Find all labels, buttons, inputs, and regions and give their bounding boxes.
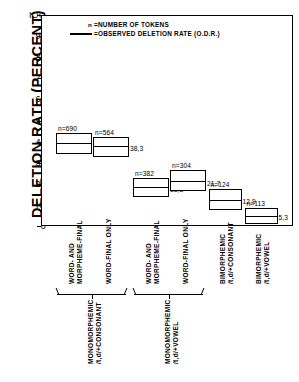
- group-label-line1: MONOMORPHEMIC: [164, 299, 172, 364]
- group-label-line1: MONOMORPHEMIC: [87, 299, 95, 364]
- x-axis-column-label-line2: /t,d/+VOWEL: [263, 234, 271, 284]
- data-box: n=382: [133, 178, 169, 197]
- y-axis-tick-mark: [37, 226, 41, 227]
- x-axis-column-label-line1: WORD- AND: [68, 220, 76, 284]
- legend-label-odr: =OBSERVED DELETION RATE (O.D.R.): [94, 29, 220, 38]
- x-axis-column-label: BIMORPHEMIC/t,d/+CONSONANT: [219, 222, 234, 284]
- group-bracket-tick: [92, 294, 93, 299]
- box-n-label: n=690: [58, 125, 77, 132]
- odr-line: [210, 200, 241, 201]
- x-axis-column-label: BIMORPHEMIC/t,d/+VOWEL: [255, 234, 270, 284]
- group-bracket: [134, 288, 203, 297]
- box-n-label: n=564: [95, 129, 114, 136]
- data-box: n=564: [93, 137, 129, 157]
- group-label: MONOMORPHEMIC/t,d/+VOWEL: [164, 299, 179, 364]
- group-bracket-tick: [169, 294, 170, 299]
- box-n-label: n=113: [247, 200, 266, 207]
- legend-item-odr: =OBSERVED DELETION RATE (O.D.R.): [66, 29, 220, 38]
- x-axis-column-label-line1: BIMORPHEMIC: [219, 222, 227, 284]
- data-box: n=690: [56, 133, 92, 154]
- odr-line: [94, 146, 128, 147]
- x-axis-column-label-line1: WORD- AND: [145, 220, 153, 284]
- legend-symbol-n: n: [66, 20, 94, 29]
- x-axis-column-label-line2: MORPHEME-FINAL: [76, 220, 84, 284]
- data-box: n=304: [170, 170, 206, 191]
- group-label-line2: /t,d/+VOWEL: [171, 299, 179, 364]
- legend-item-tokens: n =NUMBER OF TOKENS: [66, 20, 220, 29]
- odr-line: [246, 216, 277, 217]
- data-box: n=113: [245, 208, 278, 224]
- x-axis-column-label-line1: WORD-FINAL ONLY: [105, 218, 113, 284]
- odr-line: [134, 187, 168, 188]
- legend-symbol-line-icon: [66, 29, 94, 38]
- x-axis-column-label-line1: WORD-FINAL ONLY: [182, 218, 190, 284]
- legend-label-tokens: =NUMBER OF TOKENS: [94, 20, 169, 29]
- group-label-line2: /t,d/+CONSONANT: [94, 299, 102, 364]
- box-n-label: n=304: [172, 162, 191, 169]
- odr-line: [57, 143, 91, 144]
- x-axis-column-label: WORD- ANDMORPHEME-FINAL: [68, 220, 83, 284]
- x-axis-column-label-line2: MORPHEME-FINAL: [153, 220, 161, 284]
- box-n-label: n=124: [211, 181, 230, 188]
- box-value-label: 38,3: [130, 145, 143, 152]
- group-bracket: [57, 288, 126, 297]
- x-axis-column-label: WORD-FINAL ONLY: [182, 218, 190, 284]
- x-axis-column-label: WORD- ANDMORPHEME-FINAL: [145, 220, 160, 284]
- plot-area: n =NUMBER OF TOKENS =OBSERVED DELETION R…: [41, 15, 293, 226]
- x-axis-column-label: WORD-FINAL ONLY: [105, 218, 113, 284]
- group-label: MONOMORPHEMIC/t,d/+CONSONANT: [87, 299, 102, 364]
- x-axis-column-label-line1: BIMORPHEMIC: [255, 234, 263, 284]
- chart-legend: n =NUMBER OF TOKENS =OBSERVED DELETION R…: [66, 20, 220, 38]
- box-value-label: 5,3: [279, 214, 288, 221]
- data-box: n=124: [209, 189, 242, 210]
- x-axis-column-label-line2: /t,d/+CONSONANT: [227, 222, 235, 284]
- odr-line: [171, 181, 205, 182]
- box-n-label: n=382: [135, 170, 154, 177]
- chart-root: DELETION RATE (PERCENT) 0IO2030405060708…: [0, 0, 299, 382]
